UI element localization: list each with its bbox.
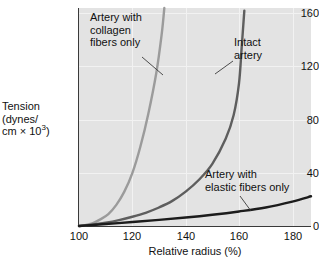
annotation-elastic-line-1: Artery with bbox=[205, 168, 289, 181]
x-tick-label-140: 140 bbox=[166, 230, 206, 242]
y-axis-label-line-1: Tension bbox=[2, 100, 74, 113]
y-tick-label-80: 80 bbox=[245, 115, 319, 126]
annotation-collagen-line-3: fibers only bbox=[90, 36, 142, 49]
annotation-collagen-line-1: Artery with bbox=[90, 11, 142, 24]
x-tick-label-120: 120 bbox=[112, 230, 152, 242]
x-tick-label-180: 180 bbox=[273, 230, 313, 242]
x-tick-label-100: 100 bbox=[59, 230, 99, 242]
y-axis-label-line-3-post: ) bbox=[46, 125, 50, 137]
annotation-intact-line-2: artery bbox=[234, 49, 262, 62]
annotation-intact-line-1: Intact bbox=[234, 36, 262, 49]
chart-figure: 160 120 80 40 0 100 120 140 160 180 Rela… bbox=[0, 0, 319, 262]
y-tick-label-120: 120 bbox=[245, 61, 319, 72]
y-axis-label-line-3: cm × 103) bbox=[2, 125, 74, 138]
y-axis-label-line-3-pre: cm × 10 bbox=[2, 125, 41, 137]
y-axis-line bbox=[78, 8, 79, 227]
y-tick-label-160: 160 bbox=[245, 8, 319, 19]
annotation-intact-artery: Intact artery bbox=[234, 36, 262, 61]
x-tick-label-160: 160 bbox=[219, 230, 259, 242]
annotation-elastic-line-2: elastic fibers only bbox=[205, 181, 289, 194]
gridline-vertical-140 bbox=[186, 8, 187, 226]
x-axis-label: Relative radius (%) bbox=[79, 245, 311, 257]
annotation-elastic: Artery with elastic fibers only bbox=[205, 168, 289, 193]
annotation-collagen: Artery with collagen fibers only bbox=[90, 11, 142, 49]
annotation-collagen-line-2: collagen bbox=[90, 24, 142, 37]
y-axis-label-line-2: (dynes/ bbox=[2, 113, 74, 126]
y-axis-label: Tension (dynes/ cm × 103) bbox=[2, 100, 74, 138]
